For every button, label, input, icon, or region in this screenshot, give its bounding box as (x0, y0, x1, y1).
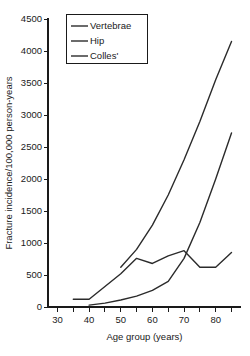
y-tick-label: 1000 (21, 237, 42, 248)
y-axis-title: Fracture incidence/100,000 person-years (3, 76, 14, 249)
y-tick-label: 500 (26, 269, 42, 280)
x-tick-label: 60 (147, 314, 158, 325)
data-series-group (73, 41, 231, 305)
fracture-incidence-chart: 050010001500200025003000350040004500 304… (0, 0, 250, 356)
y-tick-label: 4000 (21, 45, 42, 56)
chart-canvas: 050010001500200025003000350040004500 304… (0, 0, 250, 356)
x-tick-label: 50 (115, 314, 126, 325)
y-tick-label: 2500 (21, 141, 42, 152)
y-tick-label: 3500 (21, 77, 42, 88)
legend-label-vertebrae: Vertebrae (90, 20, 131, 31)
y-tick-label: 3000 (21, 109, 42, 120)
x-tick-label: 40 (84, 314, 95, 325)
legend-label-colles: Colles' (90, 50, 118, 61)
series-line-vertebrae (121, 41, 232, 267)
x-axis-ticks: 304050607080 (52, 307, 231, 325)
y-tick-label: 1500 (21, 205, 42, 216)
y-tick-label: 2000 (21, 173, 42, 184)
x-tick-label: 70 (179, 314, 190, 325)
y-axis-ticks: 050010001500200025003000350040004500 (21, 13, 48, 312)
x-tick-label: 30 (52, 314, 63, 325)
x-axis-title: Age group (years) (106, 331, 182, 342)
x-tick-label: 80 (210, 314, 221, 325)
legend-label-hip: Hip (90, 35, 104, 46)
series-line-hip (89, 133, 231, 305)
chart-legend: VertebraeHipColles' (66, 14, 147, 63)
series-line-colles (73, 251, 231, 300)
y-tick-label: 4500 (21, 13, 42, 24)
y-tick-label: 0 (37, 301, 42, 312)
